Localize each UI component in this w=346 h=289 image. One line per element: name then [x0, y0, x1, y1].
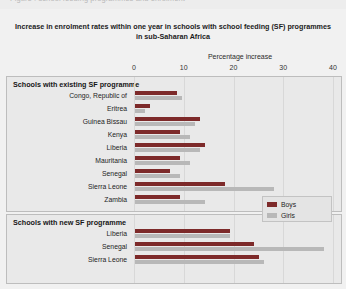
panel-new-sf: Schools with new SF programme LiberiaSen… [6, 214, 342, 284]
legend-swatch-boys-icon [267, 202, 277, 207]
x-tick-0: 0 [132, 64, 136, 71]
gridline-40 [333, 77, 334, 211]
bar-boys [135, 255, 259, 259]
category-label: Congo, Republic of [69, 92, 127, 99]
bar-boys [135, 169, 170, 173]
category-label: Zambia [104, 196, 127, 203]
panel-new-sf-title: Schools with new SF programme [13, 218, 126, 227]
bar-boys [135, 182, 225, 186]
bar-girls [135, 260, 264, 264]
cut-off-header-text: Figure : school feeding programmes and e… [10, 0, 185, 3]
panel-existing-sf: Schools with existing SF programme Congo… [6, 76, 342, 212]
legend-item-boys: Boys [267, 200, 327, 209]
bar-boys [135, 229, 230, 233]
bar-boys [135, 242, 254, 246]
category-label: Sierra Leone [88, 183, 127, 190]
bar-boys [135, 91, 177, 95]
x-tick-30: 30 [279, 64, 287, 71]
bar-girls [135, 148, 200, 152]
chart-figure: Figure : school feeding programmes and e… [0, 0, 346, 289]
bar-girls [135, 174, 180, 178]
bar-boys [135, 143, 205, 147]
x-tick-40: 40 [329, 64, 337, 71]
gridline-20 [234, 77, 235, 211]
category-label: Liberia [107, 230, 127, 237]
x-tick-10: 10 [180, 64, 188, 71]
category-label: Guinea Bissau [83, 118, 127, 125]
chart-legend: Boys Girls [262, 196, 332, 222]
bar-girls [135, 247, 324, 251]
legend-label-boys: Boys [281, 201, 296, 208]
gridline-30 [283, 77, 284, 211]
x-tick-20: 20 [230, 64, 238, 71]
category-label: Senegal [102, 243, 127, 250]
x-axis-label: Percentage increase [134, 53, 346, 60]
bar-girls [135, 234, 230, 238]
bar-girls [135, 122, 195, 126]
legend-label-girls: Girls [281, 212, 295, 219]
category-label: Liberia [107, 144, 127, 151]
category-label: Sierra Leone [88, 256, 127, 263]
bar-girls [135, 200, 205, 204]
bar-boys [135, 156, 180, 160]
gridline-40 [333, 215, 334, 283]
bar-girls [135, 135, 190, 139]
chart-title: Increase in enrolment rates within one y… [14, 22, 332, 42]
category-label: Mauritania [95, 157, 127, 164]
bar-boys [135, 130, 180, 134]
category-label: Eritrea [107, 105, 127, 112]
bar-girls [135, 109, 145, 113]
category-label: Senegal [102, 170, 127, 177]
bar-girls [135, 187, 274, 191]
panel-existing-sf-title: Schools with existing SF programme [13, 80, 139, 89]
bar-girls [135, 161, 190, 165]
bar-boys [135, 195, 180, 199]
legend-item-girls: Girls [267, 211, 327, 220]
x-axis-tick-labels: 010203040 [0, 64, 346, 75]
legend-swatch-girls-icon [267, 213, 277, 218]
bar-boys [135, 104, 150, 108]
category-label: Kenya [108, 131, 127, 138]
cut-off-header-strip: Figure : school feeding programmes and e… [0, 0, 346, 9]
bar-boys [135, 117, 200, 121]
bar-girls [135, 96, 182, 100]
